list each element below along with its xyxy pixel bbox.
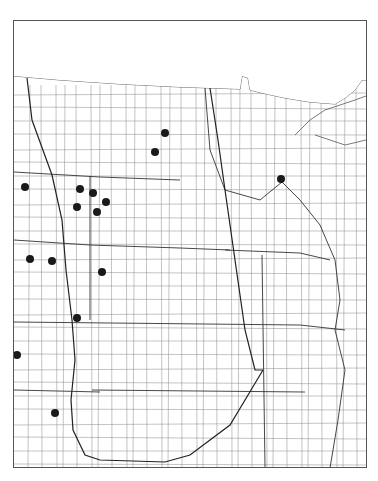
occurrence-dot xyxy=(102,198,110,206)
occurrence-dot xyxy=(98,268,106,276)
occurrence-dot xyxy=(13,351,21,359)
occurrence-dot xyxy=(21,183,29,191)
occurrence-dot xyxy=(76,185,84,193)
occurrence-dot xyxy=(277,175,285,183)
occurrence-dot xyxy=(93,208,101,216)
occurrence-dot xyxy=(73,314,81,322)
occurrence-dot xyxy=(161,129,169,137)
occurrence-dot xyxy=(48,257,56,265)
meridian-line xyxy=(210,88,263,370)
occurrence-dot xyxy=(89,189,97,197)
occurrence-dot xyxy=(73,203,81,211)
occurrence-dot xyxy=(51,409,59,417)
occurrence-dot xyxy=(151,148,159,156)
range-boundary xyxy=(27,78,263,462)
distribution-map xyxy=(0,0,378,481)
state-lines xyxy=(14,88,345,468)
occurrence-dot xyxy=(26,255,34,263)
lake-superior-south-shore xyxy=(315,135,366,145)
